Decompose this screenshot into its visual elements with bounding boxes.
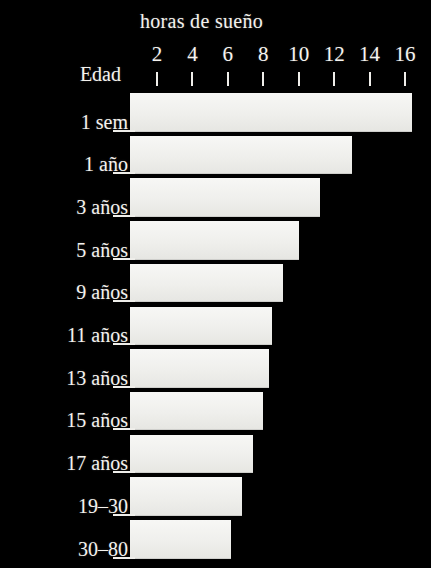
y-label-leader-line	[113, 343, 135, 345]
y-label-leader-line	[113, 514, 135, 516]
y-label-leader-line	[113, 172, 135, 174]
y-label-leader-line	[113, 386, 135, 388]
bar	[130, 520, 231, 559]
y-label-leader-line	[113, 300, 135, 302]
bar	[130, 264, 283, 303]
x-tick-label: 2	[152, 42, 163, 67]
plot-area: 1 sem1 año3 años5 años9 años11 años13 añ…	[0, 93, 431, 563]
x-tick-mark	[156, 72, 158, 86]
sleep-hours-bar-chart: horas de sueño 246810121416 Edad 1 sem1 …	[0, 0, 431, 568]
bar	[130, 136, 352, 175]
x-tick-mark	[227, 72, 229, 86]
bar	[130, 307, 272, 346]
bar-row: 19–30	[0, 477, 431, 516]
bar-row: 11 años	[0, 307, 431, 346]
x-tick-label: 4	[187, 42, 198, 67]
bar-row: 17 años	[0, 435, 431, 474]
bar-row: 5 años	[0, 221, 431, 260]
bar-row: 15 años	[0, 392, 431, 431]
bar-row: 30–80	[0, 520, 431, 559]
y-label-leader-line	[113, 130, 135, 132]
x-tick-mark	[298, 72, 300, 86]
bar	[130, 435, 253, 474]
x-tick-mark	[369, 72, 371, 86]
x-tick-mark	[404, 72, 406, 86]
y-label-leader-line	[113, 557, 135, 559]
y-label-leader-line	[113, 428, 135, 430]
x-tick-label: 16	[395, 42, 416, 67]
y-label-leader-line	[113, 215, 135, 217]
bar	[130, 392, 263, 431]
bar	[130, 477, 242, 516]
bar-row: 1 año	[0, 136, 431, 175]
x-axis: 246810121416	[0, 0, 431, 92]
bar-row: 1 sem	[0, 93, 431, 132]
x-tick-label: 10	[288, 42, 309, 67]
bar-row: 3 años	[0, 178, 431, 217]
y-label-leader-line	[113, 471, 135, 473]
x-tick-label: 8	[258, 42, 269, 67]
bar-row: 9 años	[0, 264, 431, 303]
bar	[130, 349, 269, 388]
bar	[130, 178, 320, 217]
x-tick-label: 6	[223, 42, 234, 67]
bar	[130, 93, 412, 132]
bar	[130, 221, 299, 260]
y-label-leader-line	[113, 258, 135, 260]
x-tick-mark	[191, 72, 193, 86]
x-tick-label: 14	[359, 42, 380, 67]
bar-row: 13 años	[0, 349, 431, 388]
x-tick-label: 12	[324, 42, 345, 67]
x-tick-mark	[333, 72, 335, 86]
x-tick-mark	[262, 72, 264, 86]
y-axis-title: Edad	[80, 63, 121, 86]
